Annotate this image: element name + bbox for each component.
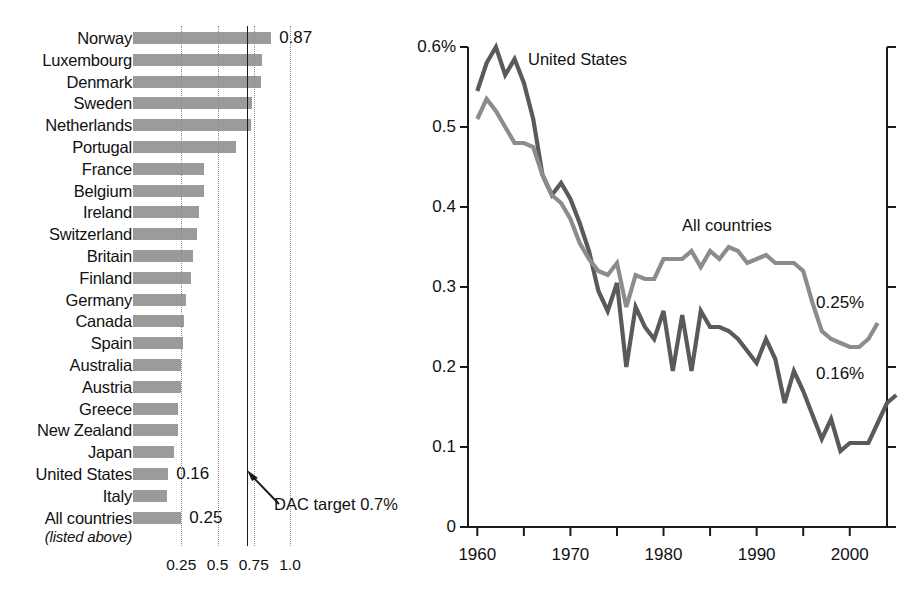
bar-row: Norway0.87	[0, 28, 400, 48]
line-y-tick-label: 0.1	[432, 437, 456, 457]
bar-row: Austria	[0, 377, 400, 397]
figure-root: Norway0.87LuxembourgDenmarkSwedenNetherl…	[0, 0, 915, 611]
bar-row: Australia	[0, 355, 400, 375]
bar-row-sublabel: (listed above)	[0, 527, 132, 547]
bar-row: Germany	[0, 290, 400, 310]
bar-rect	[133, 206, 199, 218]
bar-row-label: Ireland	[0, 202, 132, 222]
bar-x-tick-label: 0.5	[207, 556, 229, 574]
bar-gridline	[218, 26, 219, 546]
bar-gridline	[290, 26, 291, 546]
bar-row: Denmark	[0, 72, 400, 92]
bar-row-label: Germany	[0, 290, 132, 310]
bar-rect	[133, 424, 178, 436]
line-x-tick-label: 1990	[738, 545, 776, 565]
bar-row-label: United States	[0, 464, 132, 484]
bar-row: Japan	[0, 442, 400, 462]
line-y-tick-label: 0.4	[432, 197, 456, 217]
line-chart-axes	[460, 47, 896, 536]
series-label-all-countries: All countries	[682, 216, 772, 235]
bar-row-label: Finland	[0, 268, 132, 288]
bar-row: New Zealand	[0, 420, 400, 440]
bar-row: Spain	[0, 333, 400, 353]
bar-row-label: Italy	[0, 486, 132, 506]
bar-row-label: Norway	[0, 28, 132, 48]
bar-row-label: Sweden	[0, 93, 132, 113]
bar-row-label: Portugal	[0, 137, 132, 157]
bar-row: Sweden	[0, 93, 400, 113]
bar-rect	[133, 381, 181, 393]
bar-rect	[133, 32, 271, 44]
bar-rect	[133, 359, 181, 371]
bar-rect	[133, 315, 184, 327]
line-y-tick-label: 0	[447, 517, 456, 537]
bar-rect	[133, 76, 261, 88]
series-label-united-states: United States	[528, 50, 627, 69]
bar-row-label: France	[0, 159, 132, 179]
bar-row: Britain	[0, 246, 400, 266]
bar-row: Finland	[0, 268, 400, 288]
bar-chart: Norway0.87LuxembourgDenmarkSwedenNetherl…	[0, 0, 400, 611]
bar-rect	[133, 163, 204, 175]
line-x-tick-label: 1980	[645, 545, 683, 565]
bar-row-label: Austria	[0, 377, 132, 397]
line-chart-series	[477, 47, 896, 451]
line-y-tick-label: 0.3	[432, 277, 456, 297]
line-x-tick-label: 1960	[458, 545, 496, 565]
line-series-united-states	[477, 47, 896, 451]
bar-rect	[133, 272, 191, 284]
bar-x-tick-label: 0.75	[239, 556, 269, 574]
line-y-tick-label: 0.5	[432, 117, 456, 137]
bar-x-tick-label: 1.0	[279, 556, 301, 574]
bar-value-label: 0.87	[279, 28, 312, 48]
bar-rect	[133, 185, 204, 197]
line-y-tick-label: 0.6%	[417, 37, 456, 57]
line-x-tick-label: 2000	[831, 545, 869, 565]
bar-gridline	[181, 26, 182, 546]
end-label-all-countries: 0.25%	[816, 293, 864, 313]
bar-rect	[133, 97, 252, 109]
bar-row-label: Netherlands	[0, 115, 132, 135]
bar-rect	[133, 403, 178, 415]
bar-row-label: Denmark	[0, 72, 132, 92]
bar-row-label: Canada	[0, 311, 132, 331]
bar-row-label: Luxembourg	[0, 50, 132, 70]
bar-rect	[133, 141, 236, 153]
bar-row: Canada	[0, 311, 400, 331]
bar-row-label: Greece	[0, 399, 132, 419]
bar-row: Portugal	[0, 137, 400, 157]
line-y-tick-label: 0.2	[432, 357, 456, 377]
bar-rect	[133, 337, 183, 349]
bar-rect	[133, 54, 262, 66]
bar-row-label: Japan	[0, 442, 132, 462]
bar-row-label: Switzerland	[0, 224, 132, 244]
bar-row: Netherlands	[0, 115, 400, 135]
bar-rect	[133, 119, 251, 131]
bar-rect	[133, 490, 167, 502]
bar-x-tick-label: 0.25	[166, 556, 196, 574]
bar-rect	[133, 228, 197, 240]
bar-rect	[133, 250, 193, 262]
bar-row: Greece	[0, 399, 400, 419]
bar-row: Luxembourg	[0, 50, 400, 70]
bar-row-label: Spain	[0, 333, 132, 353]
bar-row-label: Britain	[0, 246, 132, 266]
bar-row-label: Australia	[0, 355, 132, 375]
bar-rect	[133, 294, 186, 306]
bar-rect	[133, 468, 168, 480]
bar-row: United States0.16	[0, 464, 400, 484]
bar-rect	[133, 446, 174, 458]
bar-row: Ireland	[0, 202, 400, 222]
dac-target-annotation: DAC target 0.7%	[274, 495, 398, 514]
line-x-tick-label: 1970	[552, 545, 590, 565]
end-label-united-states: 0.16%	[816, 364, 864, 384]
bar-row: France	[0, 159, 400, 179]
bar-row: Switzerland	[0, 224, 400, 244]
line-chart: 00.10.20.30.40.50.6% 1960197019801990200…	[400, 0, 915, 611]
bar-row: Belgium	[0, 181, 400, 201]
bar-rect	[133, 512, 181, 524]
bar-row-label: New Zealand	[0, 420, 132, 440]
bar-row-label: All countries	[0, 508, 132, 528]
bar-row-label: Belgium	[0, 181, 132, 201]
